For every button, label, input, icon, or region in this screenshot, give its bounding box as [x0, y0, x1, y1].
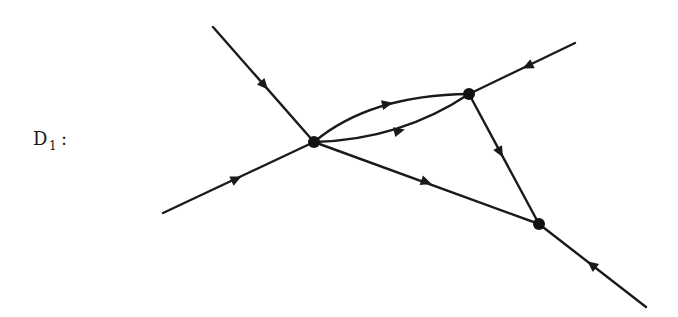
diagram-canvas: D1: [0, 0, 678, 317]
edge-internal-top-bottom [469, 94, 539, 224]
arrow-icon-top-right [520, 59, 534, 73]
vertex-bottom-right [533, 218, 545, 230]
edge-arc-upper [314, 94, 469, 142]
edge-arc-lower [314, 94, 469, 142]
edge-external-top-right [469, 43, 575, 94]
arrow-icon-left-bottom [420, 176, 434, 189]
arrow-icon-top-bottom [493, 145, 507, 159]
vertex-left [308, 136, 320, 148]
vertex-top [463, 88, 475, 100]
feynman-graph [0, 0, 678, 317]
arrow-icon-bottom-left [229, 172, 243, 186]
